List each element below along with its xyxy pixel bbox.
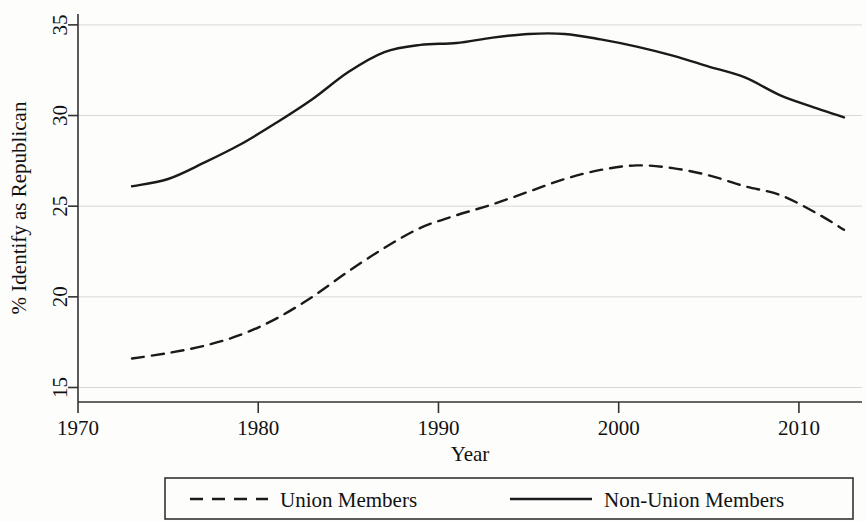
line-chart: 1520253035 19701980199020002010 % Identi… (0, 0, 867, 522)
series-lines (132, 33, 844, 358)
y-axis-label: % Identify as Republican (7, 101, 31, 314)
axes (78, 14, 862, 402)
x-axis-tick-labels: 19701980199020002010 (57, 416, 820, 440)
series-line-non-union-members (132, 33, 844, 186)
y-tick-label: 30 (48, 105, 72, 126)
gridlines (78, 25, 862, 388)
series-line-union-members (132, 165, 844, 358)
chart-figure: 1520253035 19701980199020002010 % Identi… (0, 0, 867, 522)
x-tick-label: 1970 (57, 416, 99, 440)
y-axis-tick-labels: 1520253035 (48, 14, 72, 398)
x-tick-label: 1990 (417, 416, 459, 440)
x-axis-label: Year (451, 442, 490, 466)
x-axis-ticks (78, 402, 799, 413)
x-tick-label: 2010 (778, 416, 820, 440)
y-tick-label: 25 (48, 196, 72, 217)
legend-label-union-members: Union Members (280, 488, 417, 512)
y-tick-label: 20 (48, 286, 72, 307)
x-tick-label: 2000 (598, 416, 640, 440)
x-tick-label: 1980 (237, 416, 279, 440)
y-tick-label: 35 (48, 14, 72, 35)
legend-label-non-union-members: Non-Union Members (604, 488, 784, 512)
legend: Union Members Non-Union Members (165, 478, 853, 519)
y-tick-label: 15 (48, 377, 72, 398)
